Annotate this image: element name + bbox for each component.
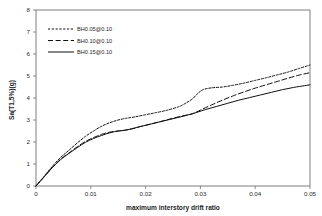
y-tick-label: 6 [27, 50, 31, 57]
x-tick-label: 0.04 [249, 190, 262, 197]
legend-label-1: BH0.05@0.10 [77, 26, 112, 32]
legend-label-3: BH0.15@0.10 [77, 49, 112, 55]
x-tick-label: 0.05 [304, 190, 317, 197]
chart-container: 00.010.020.030.040.05 012345678 BH0.05@0… [0, 0, 322, 216]
y-tick-label: 2 [27, 138, 31, 145]
y-tick-label: 3 [27, 116, 31, 123]
y-tick-label: 8 [27, 6, 31, 13]
axes [36, 10, 310, 186]
y-tick-label: 7 [27, 28, 31, 35]
y-tick-label: 0 [27, 182, 31, 189]
x-axis-title: maximum interstory drift ratio [126, 204, 220, 212]
y-tick-label: 1 [27, 160, 31, 167]
y-axis-ticks: 012345678 [27, 6, 36, 189]
x-tick-label: 0.01 [85, 190, 98, 197]
x-tick-label: 0 [34, 190, 38, 197]
y-tick-label: 5 [27, 72, 31, 79]
series-line-2 [36, 73, 310, 186]
x-axis-ticks: 00.010.020.030.040.05 [34, 186, 316, 197]
chart-legend: BH0.05@0.10BH0.10@0.10BH0.15@0.10 [48, 26, 112, 55]
series-line-1 [36, 65, 310, 186]
data-series [36, 65, 310, 186]
x-tick-label: 0.03 [194, 190, 207, 197]
y-axis-title: Sa(T1,5%)(g) [8, 80, 16, 120]
series-line-3 [36, 85, 310, 186]
y-tick-label: 4 [27, 94, 31, 101]
x-tick-label: 0.02 [140, 190, 153, 197]
line-chart: 00.010.020.030.040.05 012345678 BH0.05@0… [0, 0, 322, 216]
legend-label-2: BH0.10@0.10 [77, 38, 112, 44]
